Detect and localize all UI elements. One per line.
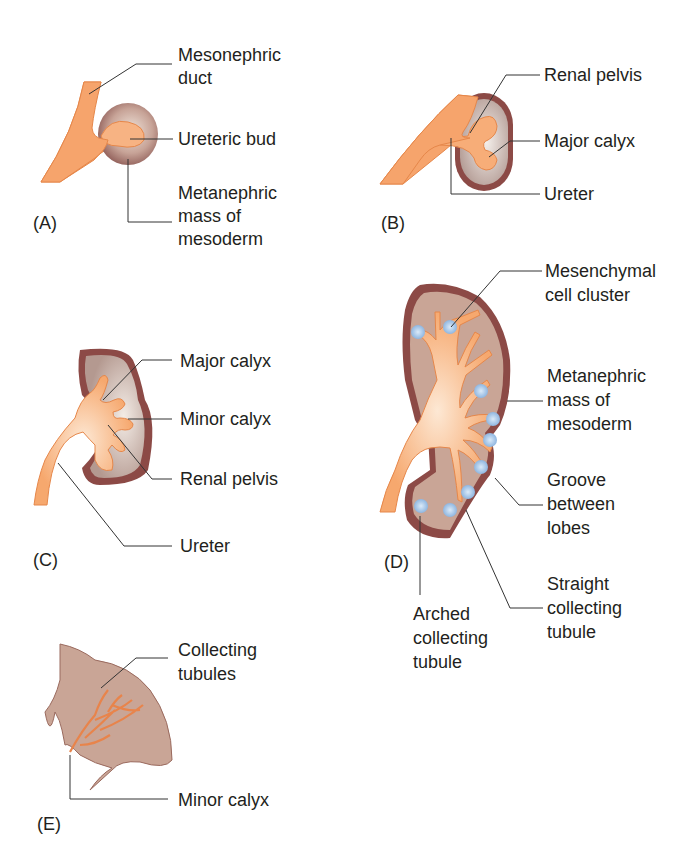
- panel-tag-a: (A): [33, 213, 57, 234]
- label-mesenchymal-line1: Mesenchymal: [545, 260, 656, 283]
- label-metanephric-mass-line2: mass of: [178, 205, 241, 228]
- label-renal-pelvis: Renal pelvis: [180, 468, 278, 491]
- label-arched-line2: collecting: [413, 627, 488, 650]
- label-minor-calyx: Minor calyx: [180, 408, 271, 431]
- label-ureter: Ureter: [544, 183, 594, 206]
- panel-c-art: [34, 349, 172, 546]
- label-groove-line2: between: [547, 493, 615, 516]
- panel-e-art: [45, 644, 172, 799]
- label-metanephric-mass-line1: Metanephric: [178, 182, 277, 205]
- label-minor-calyx-e: Minor calyx: [178, 789, 269, 812]
- label-arched-line3: tubule: [413, 651, 462, 674]
- label-mesonephric-duct-line2: duct: [178, 67, 212, 90]
- label-groove-line3: lobes: [547, 517, 590, 540]
- label-ureteric-bud: Ureteric bud: [178, 128, 276, 151]
- label-major-calyx: Major calyx: [180, 350, 271, 373]
- label-metanephric-line1: Metanephric: [547, 365, 646, 388]
- label-metanephric-line3: mesoderm: [547, 413, 632, 436]
- label-metanephric-line2: mass of: [547, 389, 610, 412]
- panel-tag-e: (E): [37, 814, 61, 835]
- label-straight-line1: Straight: [547, 573, 609, 596]
- label-collecting-line1: Collecting: [178, 639, 257, 662]
- label-straight-line3: tubule: [547, 621, 596, 644]
- label-metanephric-mass-line3: mesoderm: [178, 228, 263, 251]
- panel-tag-b: (B): [381, 213, 405, 234]
- panel-tag-d: (D): [384, 552, 409, 573]
- label-major-calyx: Major calyx: [544, 130, 635, 153]
- label-arched-line1: Arched: [413, 603, 470, 626]
- label-groove-line1: Groove: [547, 469, 606, 492]
- panel-tag-c: (C): [33, 550, 58, 571]
- label-collecting-line2: tubules: [178, 663, 236, 686]
- label-renal-pelvis: Renal pelvis: [544, 64, 642, 87]
- label-mesenchymal-line2: cell cluster: [545, 284, 630, 307]
- label-mesonephric-duct-line1: Mesonephric: [178, 44, 281, 67]
- panel-b-art: [380, 75, 540, 194]
- label-ureter: Ureter: [180, 535, 230, 558]
- panel-a-art: [41, 64, 173, 222]
- label-straight-line2: collecting: [547, 597, 622, 620]
